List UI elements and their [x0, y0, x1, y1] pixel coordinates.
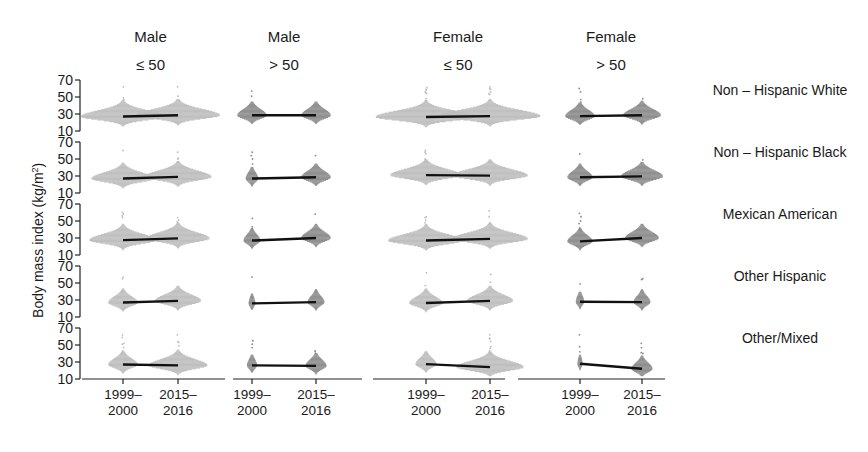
swarm-row2-col2-period1	[246, 151, 259, 187]
bmi-trend-chart: Male≤ 50Male> 50Female≤ 50Female> 50Non …	[0, 0, 868, 452]
y-tick-label: 10	[49, 372, 73, 386]
column-subtitle-1: ≤ 50	[91, 56, 211, 73]
x-tick-label: 1999–	[550, 387, 610, 403]
swarm-row5-col1-period1	[108, 334, 137, 374]
x-tick-label: 2000	[396, 403, 456, 419]
row-label-4: Other Hispanic	[690, 268, 868, 284]
row-label-3: Mexican American	[690, 206, 868, 222]
y-tick-label: 30	[49, 355, 73, 369]
swarm-row3-col4-period1	[567, 212, 592, 250]
swarm-row5-col2-period2	[306, 350, 327, 374]
swarm-row2-col4-period2	[621, 159, 663, 186]
swarm-row2-col1-period2	[144, 151, 211, 187]
x-tick-label: 2016	[612, 403, 672, 419]
y-tick-label: 70	[49, 135, 73, 149]
x-tick-label: 2015–	[286, 387, 346, 403]
swarm-row2-col1-period1	[92, 150, 155, 189]
mean-line-row1-col1	[123, 115, 178, 116]
swarm-row4-col1-period2	[155, 286, 201, 311]
swarm-row1-col3-period1	[376, 87, 477, 128]
column-title-3: Female	[398, 28, 518, 45]
y-tick-label: 70	[49, 73, 73, 87]
y-tick-label: 50	[49, 214, 73, 228]
swarm-row4-col4-period2	[634, 278, 651, 311]
row-label-2: Non – Hispanic Black	[690, 144, 868, 160]
y-tick-label: 30	[49, 107, 73, 121]
y-tick-label: 50	[49, 276, 73, 290]
swarm-row3-col4-period2	[625, 224, 659, 247]
x-tick-label: 2015–	[148, 387, 208, 403]
swarm-row4-col4-period1	[576, 283, 584, 309]
row-label-5: Other/Mixed	[690, 330, 868, 346]
row-label-1: Non – Hispanic White	[690, 82, 868, 98]
column-title-2: Male	[224, 28, 344, 45]
swarm-row1-col1-period1	[81, 86, 165, 127]
mean-line-row1-col4	[580, 115, 642, 116]
swarm-row4-col2-period2	[308, 289, 325, 311]
swarm-row1-col2-period2	[301, 102, 330, 124]
x-tick-label: 2016	[286, 403, 346, 419]
swarm-row5-col3-period1	[416, 351, 437, 373]
column-subtitle-4: > 50	[551, 56, 671, 73]
swarm-row2-col3-period1	[390, 150, 461, 185]
column-subtitle-2: > 50	[224, 56, 344, 73]
x-tick-label: 2015–	[460, 387, 520, 403]
mean-line-row3-col1	[123, 238, 178, 240]
swarm-row4-col2-period1	[249, 276, 256, 310]
swarm-row1-col4-period1	[565, 88, 594, 125]
x-tick-label: 2000	[93, 403, 153, 419]
swarm-row5-col1-period2	[149, 334, 208, 375]
swarm-row1-col4-period2	[623, 98, 661, 125]
mean-line-row4-col2	[252, 302, 316, 303]
swarm-row2-col4-period1	[567, 153, 592, 186]
swarm-row4-col3-period1	[409, 272, 443, 313]
y-tick-label: 30	[49, 293, 73, 307]
swarm-row1-col2-period1	[237, 90, 266, 124]
x-tick-label: 2015–	[612, 387, 672, 403]
x-tick-label: 2016	[148, 403, 208, 419]
x-tick-label: 2000	[550, 403, 610, 419]
y-axis-label-text: Body mass index (kg/m	[30, 172, 46, 318]
mean-line-row2-col2	[252, 177, 316, 178]
swarm-row3-col3-period2	[452, 210, 528, 249]
mean-line-row3-col3	[426, 239, 490, 241]
x-tick-label: 2016	[460, 403, 520, 419]
mean-line-row1-col3	[426, 116, 490, 117]
y-tick-label: 30	[49, 231, 73, 245]
y-tick-label: 50	[49, 338, 73, 352]
swarm-row5-col3-period2	[456, 334, 523, 376]
y-axis-label-sup: 2	[30, 167, 40, 172]
swarm-row3-col1-period2	[147, 217, 210, 249]
x-tick-label: 2000	[222, 403, 282, 419]
swarm-row3-col3-period1	[388, 216, 464, 251]
x-tick-label: 1999–	[222, 387, 282, 403]
column-title-4: Female	[551, 28, 671, 45]
x-tick-label: 1999–	[93, 387, 153, 403]
swarm-row2-col3-period2	[452, 159, 527, 186]
swarm-row2-col2-period2	[301, 155, 330, 186]
swarm-row5-col2-period1	[247, 340, 257, 373]
y-tick-label: 50	[49, 152, 73, 166]
mean-line-row5-col1	[123, 365, 178, 366]
y-axis-label: Body mass index (kg/m2)	[30, 150, 47, 330]
mean-line-row4-col1	[123, 301, 178, 303]
x-tick-label: 1999–	[396, 387, 456, 403]
swarm-row3-col2-period2	[301, 213, 330, 247]
swarm-row4-col3-period2	[467, 274, 513, 311]
column-title-1: Male	[91, 28, 211, 45]
mean-line-row2-col4	[580, 176, 642, 177]
y-tick-label: 30	[49, 169, 73, 183]
mean-line-row2-col1	[123, 177, 178, 179]
y-tick-label: 70	[49, 321, 73, 335]
swarm-row3-col1-period1	[89, 212, 156, 251]
column-subtitle-3: ≤ 50	[398, 56, 518, 73]
y-axis-label-end: )	[30, 163, 46, 168]
swarm-row5-col4-period2	[632, 342, 653, 376]
y-tick-label: 50	[49, 90, 73, 104]
swarm-row4-col1-period1	[108, 276, 137, 312]
swarm-row3-col2-period1	[244, 218, 261, 249]
y-tick-label: 70	[49, 197, 73, 211]
y-tick-label: 70	[49, 259, 73, 273]
